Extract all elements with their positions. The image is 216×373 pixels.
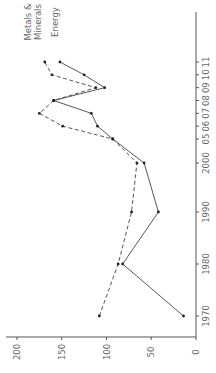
data-point — [143, 162, 146, 165]
legend-metals-minerals-label: Minerals — [33, 4, 43, 40]
data-point — [136, 162, 139, 165]
value-tick-label: 0 — [191, 349, 201, 354]
axes: 0501001502001970198019902000050607080910… — [6, 12, 211, 360]
data-point — [94, 86, 97, 89]
data-point — [43, 61, 46, 64]
time-tick-label: 07 — [201, 108, 211, 119]
data-point — [103, 86, 106, 89]
data-point — [130, 211, 133, 214]
data-point — [51, 73, 54, 76]
line-chart: 0501001502001970198019902000050607080910… — [0, 0, 216, 373]
time-tick-label: 11 — [201, 57, 211, 68]
data-point — [98, 315, 101, 318]
data-point — [61, 125, 64, 128]
legend-energy-label: Energy — [50, 7, 60, 37]
time-tick-label: 05 — [201, 134, 211, 145]
data-point — [59, 61, 62, 64]
value-tick-label: 200 — [12, 344, 22, 360]
energy-line — [54, 62, 184, 316]
data-point — [52, 99, 55, 102]
data-point — [121, 263, 124, 266]
time-tick-label: 06 — [201, 121, 211, 132]
time-tick-label: 09 — [201, 82, 211, 93]
data-point — [111, 138, 114, 141]
value-tick-label: 150 — [57, 344, 67, 360]
data-point — [96, 125, 99, 128]
series-group — [38, 61, 185, 318]
data-point — [117, 263, 120, 266]
time-tick-label: 1980 — [201, 253, 211, 275]
data-point — [38, 112, 41, 115]
data-point — [90, 112, 93, 115]
legend-metals-minerals-label: Metals & — [23, 3, 33, 41]
time-tick-label: 1990 — [201, 201, 211, 223]
time-tick-label: 1970 — [201, 305, 211, 327]
time-tick-label: 10 — [201, 69, 211, 80]
legend: Metals &MineralsEnergy — [23, 3, 60, 41]
time-tick-label: 08 — [201, 95, 211, 106]
value-tick-label: 50 — [146, 347, 156, 358]
time-tick-label: 2000 — [201, 152, 211, 174]
data-point — [157, 211, 160, 214]
value-tick-label: 100 — [102, 344, 112, 360]
data-point — [182, 315, 185, 318]
data-point — [83, 73, 86, 76]
